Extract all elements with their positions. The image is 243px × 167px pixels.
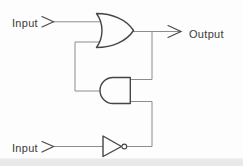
inverter-bubble-icon	[122, 144, 127, 149]
wire-feedback-and-output-to-or-input	[75, 42, 101, 91]
wire-not-output-to-and-bottom-input	[127, 102, 152, 147]
label-input-top: Input	[12, 17, 38, 29]
circuit-canvas: Input Output Input	[0, 0, 243, 166]
input-bottom-arrow-icon	[42, 142, 54, 153]
and-gate-icon	[100, 78, 130, 104]
label-input-bottom: Input	[12, 142, 38, 154]
wire-output-branch-to-and-top-input	[130, 32, 152, 80]
logic-circuit-diagram: Input Output Input	[0, 0, 243, 166]
not-gate-icon	[103, 136, 122, 157]
or-gate-icon	[97, 14, 134, 48]
label-output: Output	[189, 28, 224, 40]
page-bottom-shadow	[0, 159, 243, 167]
input-top-arrow-icon	[42, 17, 54, 28]
